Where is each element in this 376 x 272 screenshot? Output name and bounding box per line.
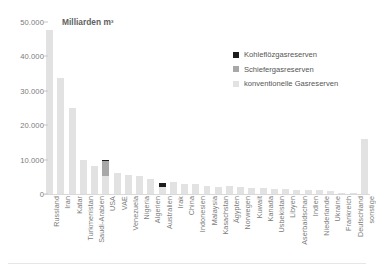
bar-column <box>361 139 368 194</box>
bar-segment-conventional <box>204 186 211 194</box>
bar-column <box>46 30 53 194</box>
x-axis-label: Nigeria <box>142 196 151 219</box>
bar-segment-conventional <box>327 191 334 194</box>
x-axis-label: Saudi-Arabien <box>97 196 106 243</box>
x-axis-label: sonstige <box>367 196 376 224</box>
legend-swatch-icon <box>233 81 239 87</box>
legend-item: Kohleflözgasreserven <box>233 50 338 59</box>
bar-column <box>69 108 76 194</box>
bar-segment-conventional <box>271 189 278 195</box>
bar-segment-conventional <box>170 182 177 194</box>
bar-column <box>125 175 132 194</box>
x-axis-label: Indonesien <box>198 196 207 232</box>
y-axis-tick-mark <box>44 125 48 126</box>
bar-column <box>248 188 255 194</box>
bar-segment-conventional <box>215 187 222 194</box>
bar-column <box>91 166 98 194</box>
y-axis-tick-mark <box>44 159 48 160</box>
bar-column <box>237 187 244 194</box>
bar-column <box>305 190 312 194</box>
legend-label: konventionelle Gasreserven <box>244 79 338 88</box>
y-axis-tick-mark <box>44 56 48 57</box>
y-axis-tick-mark <box>44 194 48 195</box>
bar-segment-conventional <box>316 190 323 194</box>
bar-column <box>316 190 323 194</box>
y-axis-tick-mark <box>44 22 48 23</box>
bar-segment-conventional <box>80 160 87 194</box>
bar-segment-conventional <box>237 187 244 194</box>
bar-segment-conventional <box>159 187 166 194</box>
bar-segment-conventional <box>136 176 143 194</box>
bar-segment-conventional <box>260 188 267 194</box>
bar-segment-conventional <box>57 78 64 194</box>
legend-label: Kohleflözgasreserven <box>244 50 317 59</box>
bar-segment-conventional <box>114 173 121 194</box>
bar-segment-conventional <box>46 30 53 194</box>
legend-swatch-icon <box>233 52 239 58</box>
x-axis-baseline <box>44 194 370 195</box>
bar-column <box>282 189 289 194</box>
x-axis-label: Malaysia <box>210 196 219 225</box>
bar-column <box>215 187 222 194</box>
x-axis-label: VAE <box>120 196 129 210</box>
y-axis-tick-label: 10.000 <box>0 155 44 164</box>
y-axis-tick-label: 50.000 <box>0 18 44 27</box>
bar-column <box>350 193 357 194</box>
x-axis-label: Aserbaidschan <box>300 196 309 245</box>
x-axis-label: Usbekistan <box>277 196 286 233</box>
y-axis-tick-mark <box>44 90 48 91</box>
x-axis-label: Venezuela <box>131 196 140 230</box>
bar-segment-conventional <box>102 176 109 194</box>
bar-segment-conventional <box>69 108 76 194</box>
x-axis-label: Norwegen <box>243 196 252 230</box>
legend-item: Schiefergasreserven <box>233 65 338 74</box>
y-axis-tick-label: 20.000 <box>0 121 44 130</box>
legend-item: konventionelle Gasreserven <box>233 79 338 88</box>
bar-segment-conventional <box>338 193 345 194</box>
x-axis-label: Kuwait <box>255 196 264 218</box>
x-axis-label: Kanada <box>266 196 275 221</box>
bar-column <box>114 173 121 194</box>
bars-area <box>44 22 370 194</box>
y-axis-tick-label: 0 <box>0 190 44 199</box>
bar-column <box>170 182 177 194</box>
bar-column <box>204 186 211 194</box>
x-axis-label: Deutschland <box>356 196 365 237</box>
bar-column <box>226 186 233 194</box>
x-axis-label: Algerien <box>153 196 162 223</box>
x-axis-label: Australien <box>165 196 174 229</box>
footer-divider <box>8 263 366 264</box>
bar-segment-conventional <box>305 190 312 194</box>
bar-segment-conventional <box>361 139 368 194</box>
x-axis-label: Turkmenistan <box>86 196 95 240</box>
x-axis-label: Irak <box>176 196 185 208</box>
x-axis-label: Frankreich <box>344 196 353 231</box>
bar-column <box>327 191 334 194</box>
bar-column <box>181 184 188 194</box>
bar-segment-conventional <box>282 189 289 194</box>
bar-segment-conventional <box>147 179 154 194</box>
bar-segment-conventional <box>91 166 98 194</box>
bar-column <box>338 193 345 194</box>
x-axis-label: Niederlande <box>322 196 331 236</box>
x-axis-labels: RusslandIranKatarTurkmenistanSaudi-Arabi… <box>44 196 370 272</box>
x-axis-label: Russland <box>52 196 61 227</box>
bar-column <box>260 188 267 194</box>
x-axis-label: Kasachstan <box>221 196 230 235</box>
bar-segment-conventional <box>293 190 300 194</box>
bar-segment-conventional <box>192 184 199 194</box>
x-axis-label: Libyen <box>288 196 297 218</box>
bar-segment-conventional <box>125 175 132 194</box>
bar-column <box>147 179 154 194</box>
bar-column <box>136 176 143 194</box>
legend-swatch-icon <box>233 66 239 72</box>
bar-segment-conventional <box>181 184 188 194</box>
bar-segment-shale <box>102 161 109 176</box>
bar-column <box>192 184 199 194</box>
x-axis-label: Iran <box>63 196 72 209</box>
y-axis-tick-label: 30.000 <box>0 86 44 95</box>
chart-legend: KohleflözgasreservenSchiefergasreservenk… <box>233 50 338 94</box>
bar-column <box>57 78 64 194</box>
bar-segment-conventional <box>226 186 233 194</box>
